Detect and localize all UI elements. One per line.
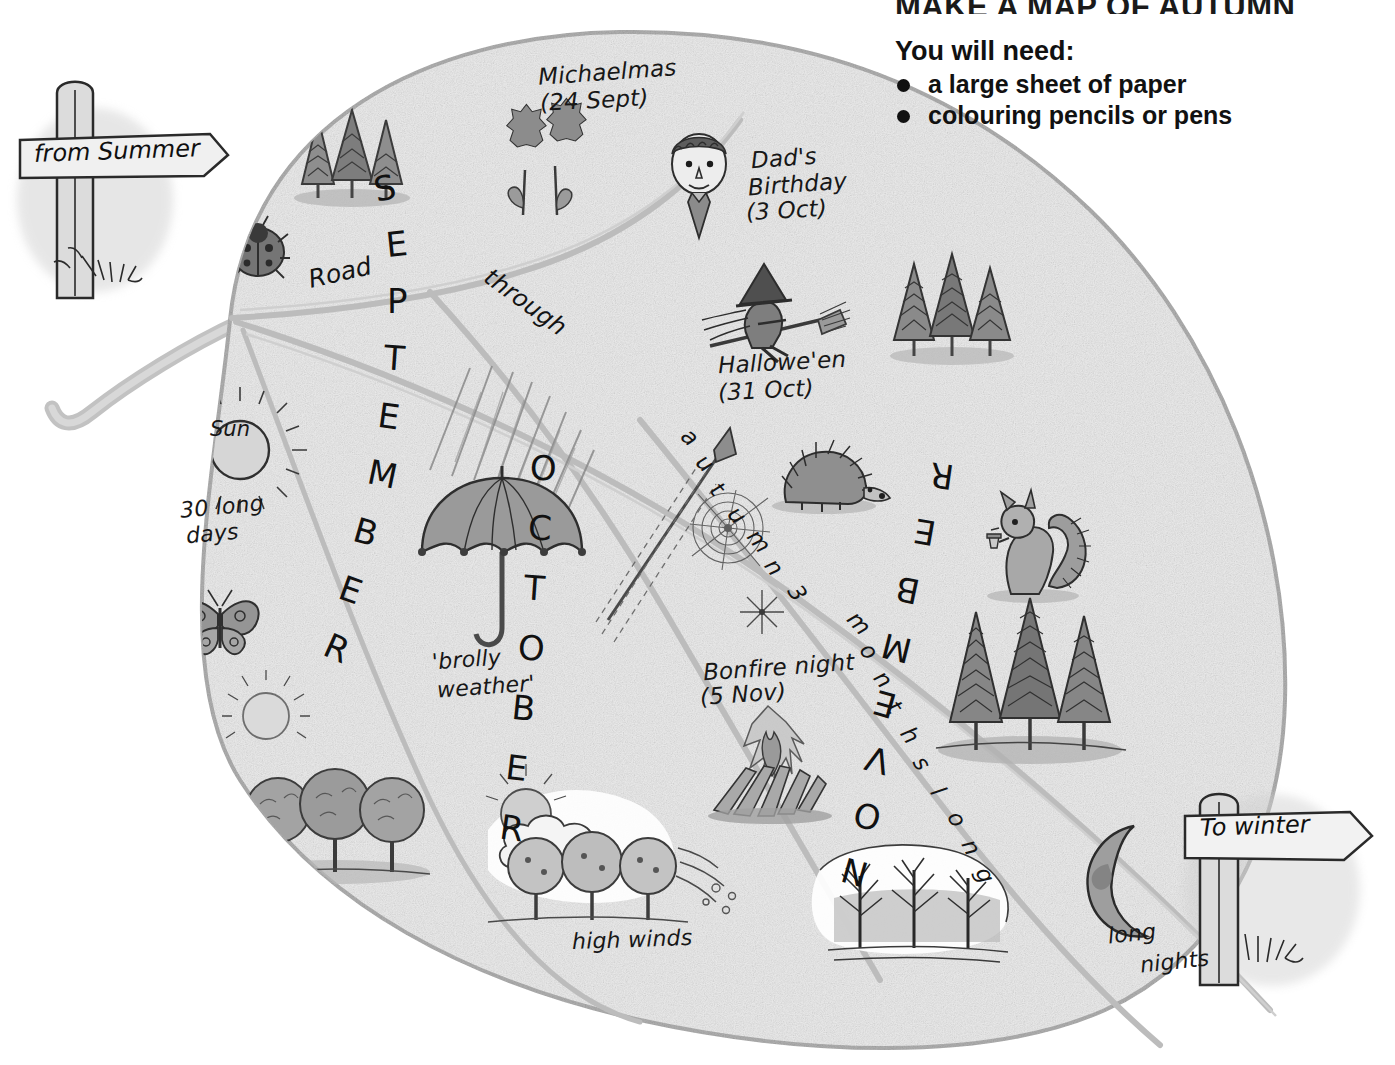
materials-list: a large sheet of paper colouring pencils…: [895, 69, 1395, 131]
signpost-to-winter-label: To winter: [1200, 810, 1310, 842]
bullet-icon: [897, 110, 910, 123]
long-nights-line1: long: [1107, 920, 1158, 950]
september-letter: E: [384, 223, 410, 265]
signpost-from-summer-label: from Summer: [34, 134, 201, 168]
brolly-weather-line1: 'brolly: [431, 646, 502, 675]
bullet-icon: [897, 79, 910, 92]
high-winds-label: high winds: [572, 926, 693, 955]
page-title: MAKE A MAP OF AUTUMN: [895, 0, 1395, 14]
you-will-need-label: You will need:: [895, 36, 1395, 67]
material-label: a large sheet of paper: [928, 70, 1186, 98]
autumn-map-page: MAKE A MAP OF AUTUMN You will need: a la…: [0, 0, 1395, 1065]
september-letter: T: [383, 337, 407, 378]
list-item: a large sheet of paper: [895, 69, 1395, 100]
material-label: colouring pencils or pens: [928, 101, 1232, 129]
list-item: colouring pencils or pens: [895, 100, 1395, 131]
event-dads-birthday-date: (3 Oct): [745, 196, 827, 226]
october-letter: O: [516, 627, 546, 669]
thirty-long-days-line2: days: [185, 520, 240, 549]
event-halloween-date: (31 Oct): [717, 376, 814, 407]
leaf-stem: [52, 322, 240, 423]
october-letter: O: [529, 448, 557, 489]
autumn-trees-icon: [240, 769, 430, 884]
instructions-block: MAKE A MAP OF AUTUMN You will need: a la…: [895, 0, 1395, 131]
sun-label: Sun: [210, 417, 250, 441]
october-letter: C: [527, 507, 553, 548]
signpost-from-summer: [17, 82, 228, 298]
october-letter: B: [510, 687, 537, 729]
september-letter: P: [387, 281, 408, 321]
october-letter: T: [523, 567, 547, 608]
